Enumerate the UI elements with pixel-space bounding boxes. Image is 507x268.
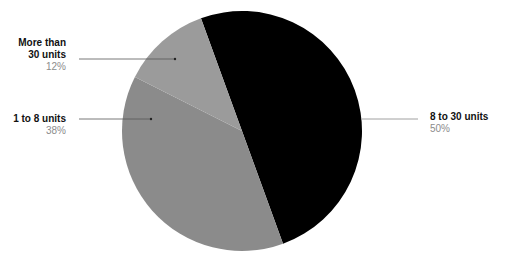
label-8-to-30-units: 8 to 30 units 50%	[430, 111, 488, 135]
label-percent: 12%	[18, 61, 66, 73]
label-more-than-30-units: More than 30 units 12%	[18, 37, 66, 73]
label-percent: 38%	[13, 125, 66, 137]
leader-dot-1-to-8	[150, 118, 152, 120]
label-name: 1 to 8 units	[13, 113, 66, 125]
leader-dot-more-than-30	[174, 58, 176, 60]
label-name: 30 units	[18, 49, 66, 61]
label-percent: 50%	[430, 123, 488, 135]
label-name: 8 to 30 units	[430, 111, 488, 123]
label-1-to-8-units: 1 to 8 units 38%	[13, 113, 66, 137]
label-name: More than	[18, 37, 66, 49]
